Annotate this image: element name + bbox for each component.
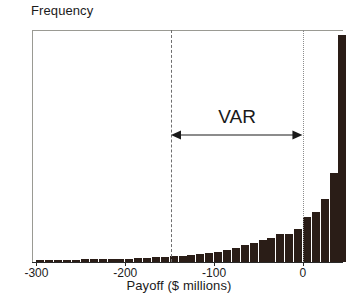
x-axis-tick-label: -300: [11, 266, 61, 280]
x-axis-label: Payoff ($ millions): [0, 278, 358, 293]
histogram-bar: [223, 250, 231, 262]
x-axis-tick-label: 0: [278, 266, 328, 280]
histogram-bar: [285, 234, 293, 262]
var-lower-bound-line: [171, 30, 172, 262]
x-axis-line: [32, 262, 343, 263]
histogram-bar: [250, 243, 258, 262]
histogram-bar: [303, 217, 311, 262]
histogram-bar: [267, 238, 275, 262]
histogram-bar: [294, 229, 302, 262]
histogram-bar: [196, 254, 204, 262]
histogram-bar: [205, 253, 213, 262]
y-axis-label: Frequency: [31, 3, 93, 18]
x-axis-tick-label: -100: [189, 266, 239, 280]
var-double-headed-arrow: [171, 126, 302, 144]
var-upper-bound-line: [303, 30, 304, 262]
histogram-bar: [259, 240, 267, 262]
payoff-frequency-histogram: Frequency VAR Payoff ($ millions) -300-2…: [0, 0, 358, 307]
histogram-bar: [312, 212, 320, 262]
histogram-bar: [330, 173, 338, 262]
histogram-bar: [241, 245, 249, 262]
histogram-bar: [276, 234, 284, 262]
x-axis-tick-label: -200: [100, 266, 150, 280]
histogram-bar: [187, 255, 195, 262]
histogram-bar: [321, 199, 329, 262]
plot-area: [32, 30, 342, 262]
histogram-bar: [232, 248, 240, 262]
histogram-bar: [338, 35, 346, 262]
histogram-bar: [214, 252, 222, 262]
